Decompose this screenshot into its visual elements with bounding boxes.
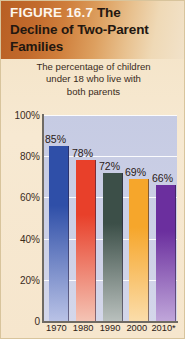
bar-value-label: 69% (125, 166, 146, 178)
bar-1990 (103, 173, 123, 321)
x-axis-tick-label: 2010* (150, 323, 177, 333)
y-axis-tick-label: 40% (2, 233, 40, 244)
bar-1980 (76, 160, 96, 321)
bar-1970 (49, 146, 69, 321)
y-axis-tick-labels: 100%80%60%40%20%0 (1, 1, 40, 339)
bar-value-label: 72% (99, 160, 120, 172)
plot-area (43, 115, 177, 321)
y-axis-tick-label: 20% (2, 274, 40, 285)
y-axis-tick-label: 80% (2, 151, 40, 162)
bar-2010 (156, 185, 176, 321)
bar-value-label: 85% (45, 133, 66, 145)
y-axis-tick-label: 100% (2, 110, 40, 121)
bar-value-label: 78% (72, 147, 93, 159)
bar-chart: 100%80%60%40%20%0 85%197078%198072%19906… (1, 1, 185, 339)
figure-card: FIGURE 16.7 The Decline of Two-Parent Fa… (0, 0, 185, 339)
bar-value-label: 66% (152, 172, 173, 184)
x-axis-tick-label: 1990 (97, 323, 124, 333)
x-axis-tick-label: 1970 (43, 323, 70, 333)
y-axis-tick-label: 60% (2, 192, 40, 203)
gridline (43, 115, 177, 116)
x-axis-tick-label: 2000 (123, 323, 150, 333)
y-axis-tick-label: 0 (2, 316, 40, 327)
bar-2000 (129, 179, 149, 321)
y-axis-line (42, 114, 44, 322)
x-axis-tick-label: 1980 (70, 323, 97, 333)
